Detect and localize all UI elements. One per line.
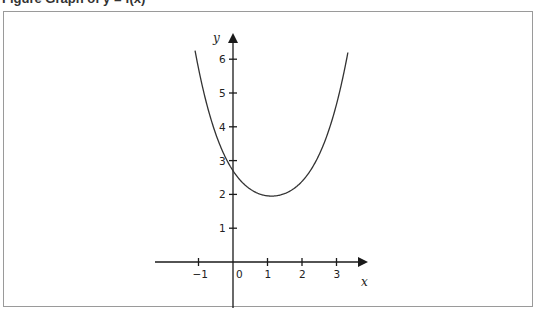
y-tick-label: 4 xyxy=(219,121,226,133)
x-tick-label: −1 xyxy=(193,268,208,280)
y-tick-label: 1 xyxy=(219,222,226,234)
y-tick-label: 5 xyxy=(219,87,226,99)
y-axis-label: y xyxy=(212,31,220,45)
y-tick-label: 2 xyxy=(219,188,226,200)
function-curve xyxy=(195,51,348,196)
x-axis-label: x xyxy=(361,275,368,289)
x-tick-label: 2 xyxy=(299,268,306,280)
y-tick-label: 6 xyxy=(219,53,226,65)
x-ticks: −10123 xyxy=(193,258,341,280)
x-tick-label: 0 xyxy=(236,268,243,280)
function-graph: −10123 123456 x y xyxy=(0,0,539,317)
x-tick-label: 3 xyxy=(334,268,341,280)
x-tick-label: 1 xyxy=(265,268,272,280)
y-ticks: 123456 xyxy=(219,53,237,234)
